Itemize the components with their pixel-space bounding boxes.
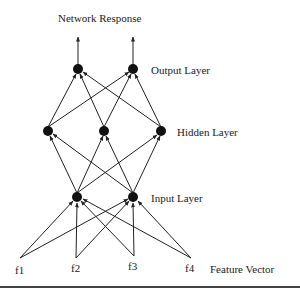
edge-h1-o2 — [48, 72, 129, 127]
bottom-divider — [0, 286, 300, 288]
edge-f4-i2 — [138, 201, 191, 258]
hidden-layer-label: Hidden Layer — [177, 126, 238, 138]
input-node-2 — [128, 192, 138, 202]
feature-vector-label: Feature Vector — [210, 263, 274, 275]
input-layer-label: Input Layer — [151, 192, 203, 204]
edge-f1-i1 — [20, 201, 73, 258]
edge-h1-o1 — [48, 74, 76, 127]
edge-h3-o2 — [135, 74, 161, 127]
edge-h3-o1 — [83, 72, 161, 127]
edge-f4-i1 — [83, 199, 191, 258]
edge-f1-i2 — [20, 199, 128, 258]
edge-f3-i2 — [133, 203, 134, 256]
edge-h2-o1 — [80, 74, 104, 127]
edge-h2-o2 — [104, 74, 131, 127]
edge-i2-h3 — [133, 136, 160, 193]
neural-network-diagram — [0, 0, 300, 293]
input-node-1 — [72, 192, 82, 202]
hidden-node-1 — [43, 126, 53, 136]
edge-f2-i1 — [76, 203, 77, 258]
edge-i1-h3 — [77, 135, 157, 193]
edge-i1-h1 — [50, 136, 77, 193]
network-response-title: Network Response — [58, 12, 141, 24]
output-node-2 — [128, 64, 138, 74]
output-node-1 — [73, 64, 83, 74]
hidden-node-3 — [156, 126, 166, 136]
edge-f3-i1 — [81, 201, 134, 256]
edge-i2-h2 — [106, 136, 133, 193]
feature-f3: f3 — [128, 260, 137, 272]
feature-f4: f4 — [185, 262, 194, 274]
output-layer-label: Output Layer — [151, 64, 210, 76]
edge-i1-h2 — [77, 136, 103, 193]
edge-i2-h1 — [53, 134, 133, 193]
hidden-node-2 — [99, 126, 109, 136]
feature-f2: f2 — [71, 262, 80, 274]
feature-f1: f1 — [15, 264, 24, 276]
